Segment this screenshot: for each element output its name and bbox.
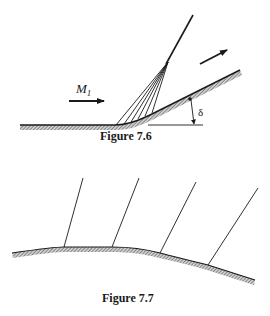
figure-caption: Figure 7.6	[100, 129, 152, 143]
wall-hatching	[12, 247, 255, 285]
mach-line-2	[112, 178, 139, 247]
figure-caption: Figure 7.7	[102, 291, 154, 305]
wall-hatching	[20, 70, 242, 130]
mach-line-3	[160, 182, 196, 253]
figure-7-7: Figure 7.7	[12, 178, 258, 305]
delta-angle-arrow	[191, 100, 194, 124]
figure-7-6: M1 δ Figure 7.6	[20, 15, 242, 143]
wall-surface	[20, 70, 240, 125]
diagram-canvas: M1 δ Figure 7.6 Figure 7.7	[0, 0, 270, 316]
mach-label: M1	[75, 81, 91, 98]
mach-line-4	[208, 188, 258, 265]
delta-label: δ	[198, 106, 203, 118]
coalesced-wave-line	[166, 15, 193, 64]
outgoing-flow-arrow	[200, 50, 227, 64]
mach-line-1	[64, 178, 83, 247]
